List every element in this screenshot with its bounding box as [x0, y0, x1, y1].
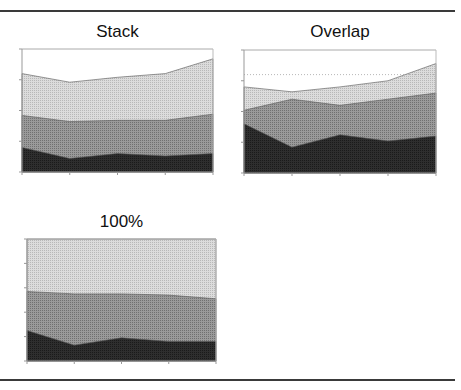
overlap-chart	[241, 50, 436, 176]
charts-canvas	[0, 0, 461, 390]
percent-chart	[24, 239, 216, 364]
stack-chart	[19, 49, 213, 175]
